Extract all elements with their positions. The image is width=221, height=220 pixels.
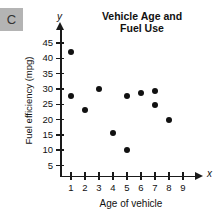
y-axis-tick (56, 42, 64, 43)
data-point (138, 90, 144, 96)
y-axis-tick-label: 25 (33, 98, 53, 109)
x-axis-tick (168, 172, 169, 180)
data-point (96, 86, 102, 92)
x-axis-tick-label: 6 (134, 182, 148, 193)
data-point (124, 93, 130, 99)
y-axis-tick (56, 165, 64, 166)
x-axis-tick-label: 9 (176, 182, 190, 193)
y-axis-tick (56, 119, 64, 120)
y-axis-tick (56, 88, 64, 89)
data-point (152, 88, 158, 94)
x-axis-line (60, 176, 197, 178)
y-axis-arrow-icon (56, 22, 64, 30)
x-axis-tick (84, 172, 85, 180)
y-axis-tick (56, 73, 64, 74)
x-axis-tick-label: 7 (148, 182, 162, 193)
x-axis-tick (126, 172, 127, 180)
x-axis-tick (98, 172, 99, 180)
y-axis-tick-label: 10 (33, 144, 53, 155)
y-axis-tick (56, 58, 64, 59)
x-axis-title: Age of vehicle (56, 198, 206, 209)
x-axis-tick (140, 172, 141, 180)
x-axis-tick-label: 8 (162, 182, 176, 193)
x-axis-tick (112, 172, 113, 180)
y-axis-tick-label: 30 (33, 83, 53, 94)
data-point (110, 130, 116, 136)
y-axis-tick-label: 45 (33, 37, 53, 48)
y-axis-tick (56, 149, 64, 150)
x-axis-tick-label: 4 (106, 182, 120, 193)
x-axis-tick-label: 1 (64, 182, 78, 193)
y-axis-title: Fuel efficiency (mpg) (23, 41, 34, 161)
scatter-plot-figure: Vehicle Age and Fuel Use y x 51015202530… (0, 0, 221, 220)
data-point (68, 93, 74, 99)
data-point (166, 117, 172, 123)
y-axis-tick-label: 40 (33, 52, 53, 63)
data-point (152, 102, 158, 108)
x-axis-tick-label: 5 (120, 182, 134, 193)
x-axis-tick-label: 2 (78, 182, 92, 193)
x-axis-tick (182, 172, 183, 180)
y-axis-variable-label: y (57, 11, 62, 22)
y-axis-tick-label: 15 (33, 129, 53, 140)
y-axis-tick (56, 104, 64, 105)
x-axis-tick-label: 3 (92, 182, 106, 193)
x-axis-variable-label: x (207, 168, 212, 179)
data-point (68, 49, 74, 55)
x-axis-arrow-icon (195, 172, 203, 180)
y-axis-tick (56, 134, 64, 135)
x-axis-tick (70, 172, 71, 180)
y-axis-tick-label: 20 (33, 114, 53, 125)
y-axis-tick-label: 5 (33, 160, 53, 171)
data-point (82, 107, 88, 113)
data-point (124, 147, 130, 153)
x-axis-tick (154, 172, 155, 180)
y-axis-tick-label: 35 (33, 68, 53, 79)
